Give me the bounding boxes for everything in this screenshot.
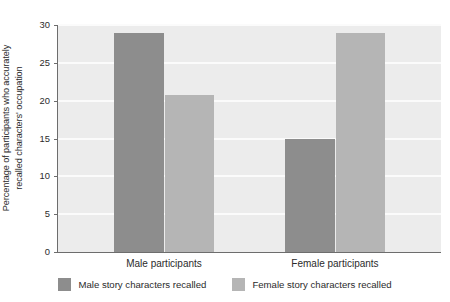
legend-label-male-story: Male story characters recalled	[78, 279, 206, 290]
chart-legend: Male story characters recalled Female st…	[0, 278, 450, 291]
y-tick-label: 30	[28, 19, 50, 30]
y-tick-label: 10	[28, 170, 50, 181]
bar-male-story-female-participants	[285, 139, 335, 253]
y-tick-label: 15	[28, 133, 50, 144]
x-category-label-male: Male participants	[94, 258, 234, 269]
bar-chart-figure: Percentage of participants who accuratel…	[0, 0, 450, 302]
y-tick-label: 25	[28, 57, 50, 68]
legend-item-female-story: Female story characters recalled	[232, 278, 391, 291]
y-axis-line	[57, 25, 58, 253]
gridline	[58, 24, 441, 26]
legend-label-female-story: Female story characters recalled	[252, 279, 391, 290]
bar-female-story-male-participants	[165, 95, 214, 252]
x-category-label-female: Female participants	[265, 258, 405, 269]
bar-female-story-female-participants	[336, 33, 385, 252]
x-axis-line	[57, 252, 441, 253]
y-tick-label: 0	[28, 246, 50, 257]
y-tick-label: 20	[28, 95, 50, 106]
legend-swatch-female-story	[232, 278, 245, 291]
y-axis-title-line-1: Percentage of participants who accuratel…	[0, 0, 13, 256]
y-axis-title-line-2: recalled characters' occupation	[13, 0, 26, 256]
y-tick-label: 5	[28, 208, 50, 219]
legend-item-male-story: Male story characters recalled	[58, 278, 206, 291]
legend-swatch-male-story	[58, 278, 71, 291]
bar-male-story-male-participants	[114, 33, 164, 252]
